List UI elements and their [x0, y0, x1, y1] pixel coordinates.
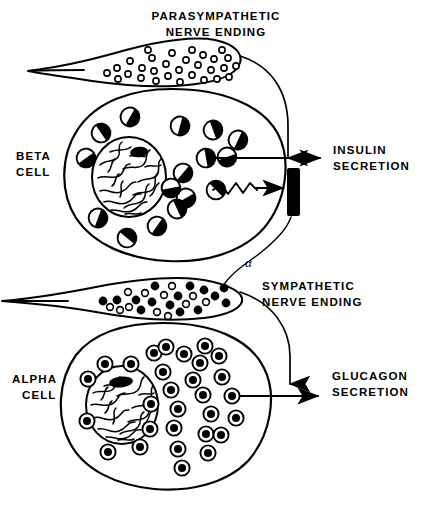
granule-alpha	[80, 371, 95, 386]
granule-alpha	[176, 346, 191, 361]
granule-alpha	[195, 387, 210, 402]
glucagon-label-line2: SECRETION	[332, 386, 409, 398]
sympathetic-nerve-ending	[2, 278, 242, 320]
parasympathetic-axon-tail	[28, 70, 84, 71]
granule-alpha	[155, 364, 170, 379]
granule-alpha	[158, 339, 173, 354]
alpha-cell	[61, 323, 271, 490]
alpha-cell-label-line1: ALPHA	[12, 373, 57, 385]
parasympathetic-membrane	[28, 39, 241, 87]
beta-cell-label-line2: CELL	[16, 166, 50, 178]
parasympathetic-nerve-ending-label: PARASYMPATHETIC NERVE ENDING	[152, 10, 281, 38]
granule-alpha	[123, 356, 138, 371]
glucagon-secretion-label: GLUCAGON SECRETION	[332, 370, 409, 398]
granule-alpha	[100, 444, 115, 459]
granule-alpha	[211, 348, 226, 363]
alpha-cell-label: ALPHA CELL	[12, 373, 57, 401]
granule-alpha	[163, 382, 178, 397]
islet-innervation-diagram: PARASYMPATHETIC NERVE ENDING	[0, 0, 432, 513]
granule-alpha	[170, 441, 185, 456]
parasympathetic-label-line1: PARASYMPATHETIC	[152, 10, 281, 22]
granule-alpha	[214, 369, 229, 384]
granule-alpha	[197, 338, 212, 353]
granule-alpha	[170, 401, 185, 416]
beta-cell-nucleus	[92, 137, 166, 217]
alpha-cell-label-line2: CELL	[22, 389, 56, 401]
granule-alpha	[203, 406, 218, 421]
granule-alpha	[185, 372, 200, 387]
diagram-canvas: PARASYMPATHETIC NERVE ENDING	[0, 0, 432, 513]
insulin-secretion-label: INSULIN SECRETION	[333, 144, 410, 172]
granule-alpha	[132, 439, 147, 454]
insulin-label-line1: INSULIN	[333, 144, 387, 156]
parasympathetic-label-line2: NERVE ENDING	[166, 26, 267, 38]
granule-alpha	[228, 410, 243, 425]
granule-alpha	[213, 427, 228, 442]
sympathetic-label-line2: NERVE ENDING	[262, 296, 363, 308]
granule-alpha-secreting	[224, 388, 239, 403]
beta-cell	[64, 89, 285, 261]
granule-alpha	[174, 460, 189, 475]
beta-cell-label: BETA CELL	[16, 150, 51, 178]
granule-alpha	[198, 426, 213, 441]
sympathetic-nerve-ending-label: SYMPATHETIC NERVE ENDING	[262, 280, 363, 308]
granule-alpha	[192, 355, 207, 370]
glucagon-label-line1: GLUCAGON	[332, 370, 408, 382]
parasympathetic-nerve-ending	[28, 39, 241, 87]
alpha-receptor-bar	[287, 168, 300, 216]
insulin-label-line2: SECRETION	[333, 160, 410, 172]
sympathetic-label-line1: SYMPATHETIC	[262, 280, 355, 292]
granule-alpha	[97, 356, 112, 371]
granule-alpha	[79, 413, 94, 428]
granule-alpha	[200, 445, 215, 460]
granule-alpha	[143, 396, 158, 411]
granule-alpha	[166, 420, 181, 435]
granule-alpha	[142, 421, 157, 436]
beta-cell-label-line1: BETA	[16, 150, 51, 162]
